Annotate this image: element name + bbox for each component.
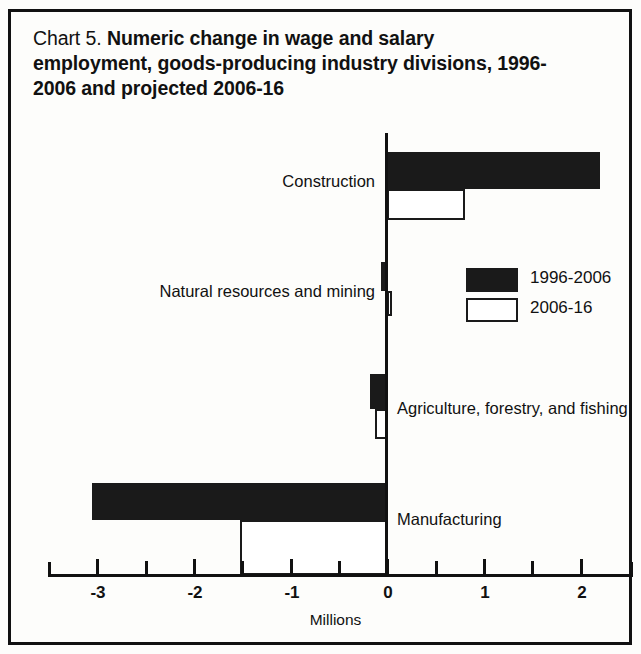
x-tick-minus-1 bbox=[290, 559, 293, 575]
bar-manufacturing-2006-16 bbox=[240, 520, 388, 575]
x-tick-minus-2-5 bbox=[145, 561, 148, 575]
x-tick-label-2: 2 bbox=[562, 583, 602, 603]
x-tick-label-0: 0 bbox=[368, 583, 408, 603]
legend-label-1996-2006: 1996-2006 bbox=[530, 268, 611, 288]
zero-axis-line bbox=[385, 133, 388, 576]
x-tick-1-5 bbox=[531, 561, 534, 575]
plot-area: Construction Natural resources and minin… bbox=[0, 0, 641, 654]
legend-swatch-filled-icon bbox=[466, 268, 518, 292]
x-tick-minus-3 bbox=[96, 559, 99, 575]
x-tick-minus-1-5 bbox=[241, 561, 244, 575]
x-tick-label-minus-3: -3 bbox=[78, 583, 118, 603]
bar-construction-2006-16 bbox=[387, 189, 465, 220]
bar-construction-1996-2006 bbox=[387, 152, 600, 189]
legend-label-2006-16: 2006-16 bbox=[530, 298, 592, 318]
x-tick-2 bbox=[580, 559, 583, 575]
category-label-natural-resources: Natural resources and mining bbox=[70, 282, 375, 301]
x-axis-title: Millions bbox=[0, 611, 641, 629]
x-tick-minus-2 bbox=[193, 559, 196, 575]
bar-manufacturing-1996-2006 bbox=[92, 483, 388, 520]
chart-figure: Chart 5. Numeric change in wage and sala… bbox=[0, 0, 641, 654]
x-axis-right-cap bbox=[630, 562, 633, 576]
x-tick-0 bbox=[386, 559, 389, 575]
category-label-construction: Construction bbox=[100, 172, 375, 191]
legend-swatch-hollow-icon bbox=[466, 298, 518, 322]
x-axis-title-text: Millions bbox=[310, 611, 362, 628]
x-tick-0-5 bbox=[435, 561, 438, 575]
x-tick-1 bbox=[483, 559, 486, 575]
x-tick-minus-0-5 bbox=[338, 561, 341, 575]
x-tick-label-minus-1: -1 bbox=[272, 583, 312, 603]
x-axis-left-cap bbox=[48, 562, 51, 576]
x-tick-label-minus-2: -2 bbox=[175, 583, 215, 603]
category-label-manufacturing: Manufacturing bbox=[397, 510, 502, 529]
x-tick-label-1: 1 bbox=[465, 583, 505, 603]
category-label-agriculture: Agriculture, forestry, and fishing bbox=[397, 399, 628, 418]
